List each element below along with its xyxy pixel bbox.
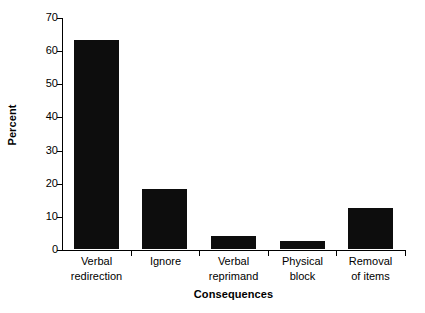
- bar: [142, 189, 187, 249]
- x-axis-tick-mark: [405, 251, 406, 256]
- bar: [280, 241, 325, 249]
- y-axis-tick-label: 40: [46, 110, 58, 123]
- x-axis-title: Consequences: [62, 288, 405, 300]
- bar-chart: Percent 010203040506070 Verbal redirecti…: [0, 0, 425, 313]
- plot-area: 010203040506070: [62, 18, 405, 250]
- y-axis-title-text: Percent: [6, 104, 18, 145]
- y-axis-tick-label: 20: [46, 177, 58, 190]
- x-axis-category-label: Ignore: [131, 254, 200, 269]
- x-axis-category-label: Physical block: [268, 254, 337, 284]
- x-axis-category-label: Verbal redirection: [62, 254, 131, 284]
- bar: [74, 40, 119, 249]
- y-axis-tick-label: 10: [46, 210, 58, 223]
- x-axis-category-label: Verbal reprimand: [199, 254, 268, 284]
- bar: [348, 208, 393, 249]
- y-axis-tick-label: 0: [52, 243, 58, 256]
- x-axis-category-label: Removal of items: [336, 254, 405, 284]
- y-axis-tick-label: 30: [46, 144, 58, 157]
- y-axis-title: Percent: [0, 0, 24, 250]
- y-axis-tick-label: 50: [46, 77, 58, 90]
- x-axis-line: [62, 250, 406, 251]
- y-axis-tick-label: 70: [46, 11, 58, 24]
- y-axis-line: [62, 18, 63, 251]
- bar: [211, 236, 256, 249]
- y-axis-tick-label: 60: [46, 44, 58, 57]
